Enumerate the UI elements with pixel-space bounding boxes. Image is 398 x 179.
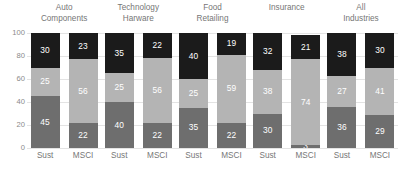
bar-segment-bottom[interactable]: 22	[69, 123, 98, 148]
stacked-bar[interactable]: 402535	[179, 33, 208, 148]
bar-segment-value: 40	[189, 52, 199, 61]
bar-segment-bottom[interactable]: 22	[217, 123, 246, 148]
x-axis-group: SustMSCI	[101, 150, 175, 170]
x-axis-tick-label: Sust	[105, 150, 134, 170]
bar-segment-top[interactable]: 30	[31, 33, 60, 68]
bar-group: 382736304129	[324, 33, 398, 148]
y-axis-tick-label: 20	[0, 121, 25, 129]
bar-segment-value: 25	[189, 89, 199, 98]
group-header: Insurance	[250, 0, 324, 33]
x-axis-group: SustMSCI	[27, 150, 101, 170]
gridline	[27, 148, 398, 149]
bar-segment-middle[interactable]: 25	[31, 68, 60, 97]
bar-segment-top[interactable]: 23	[69, 33, 98, 59]
bar-segment-bottom[interactable]: 45	[31, 96, 60, 148]
y-axis-tick-label: 0	[0, 144, 25, 152]
bar-segment-value: 3	[303, 145, 308, 148]
bar-segment-top[interactable]: 19	[217, 33, 246, 55]
bar-segment-middle[interactable]: 25	[179, 79, 208, 108]
bar-segment-value: 23	[78, 42, 88, 51]
y-axis-tick-label: 40	[0, 98, 25, 106]
stacked-bar[interactable]: 323830	[253, 33, 282, 148]
x-axis-tick-label: MSCI	[143, 150, 172, 170]
bar-segment-value: 56	[153, 86, 163, 95]
stacked-bar[interactable]: 382736	[327, 33, 356, 148]
bar-segment-value: 22	[78, 131, 88, 140]
x-axis-tick-label: Sust	[179, 150, 208, 170]
bar-segment-value: 29	[375, 127, 385, 136]
bar-segment-value: 27	[337, 87, 347, 96]
bar-segment-value: 22	[227, 131, 237, 140]
x-axis-tick-label: MSCI	[291, 150, 320, 170]
bar-segment-value: 56	[78, 87, 88, 96]
stacked-bar[interactable]: 225622	[143, 33, 172, 148]
x-axis-tick-label: MSCI	[69, 150, 98, 170]
stacked-bar-chart: Auto ComponentsTechnology HarwareFood Re…	[0, 0, 398, 179]
stacked-bar[interactable]: 195922	[217, 33, 246, 148]
bar-segment-middle[interactable]: 41	[365, 68, 394, 115]
bar-segment-bottom[interactable]: 30	[253, 114, 282, 149]
bar-segment-value: 40	[115, 121, 125, 130]
bar-segment-top[interactable]: 35	[105, 33, 134, 73]
y-axis-tick-label: 60	[0, 75, 25, 83]
bar-segment-value: 30	[375, 46, 385, 55]
bar-segment-bottom[interactable]: 3	[291, 145, 320, 148]
bar-segment-middle[interactable]: 59	[217, 55, 246, 123]
bar-segment-value: 22	[153, 41, 163, 50]
group-header-row: Auto ComponentsTechnology HarwareFood Re…	[27, 0, 398, 33]
group-header: Auto Components	[27, 0, 101, 33]
stacked-bar[interactable]: 304129	[365, 33, 394, 148]
bar-group: 302545235622	[27, 33, 101, 148]
stacked-bar[interactable]: 352540	[105, 33, 134, 148]
bar-segment-top[interactable]: 32	[253, 33, 282, 70]
bar-segment-middle[interactable]: 25	[105, 73, 134, 102]
x-axis-tick-label: MSCI	[217, 150, 246, 170]
x-axis-tick-label: Sust	[327, 150, 356, 170]
bar-segment-bottom[interactable]: 35	[179, 108, 208, 148]
bar-segment-top[interactable]: 22	[143, 33, 172, 58]
x-axis-tick-label: MSCI	[365, 150, 394, 170]
plot-area: 3025452356223525402256224025351959223238…	[27, 33, 398, 148]
bar-segment-value: 41	[375, 87, 385, 96]
bar-segment-value: 59	[227, 84, 237, 93]
bar-segment-middle[interactable]: 38	[253, 70, 282, 114]
bar-segment-value: 38	[337, 50, 347, 59]
bar-segment-middle[interactable]: 74	[291, 59, 320, 144]
x-axis-group: SustMSCI	[324, 150, 398, 170]
stacked-bar[interactable]: 235622	[69, 33, 98, 148]
bar-segment-top[interactable]: 30	[365, 33, 394, 68]
bar-segment-middle[interactable]: 27	[327, 76, 356, 107]
bar-segment-top[interactable]: 38	[327, 33, 356, 76]
bar-segment-bottom[interactable]: 36	[327, 107, 356, 148]
group-header: Food Retailing	[175, 0, 249, 33]
bar-segment-value: 25	[40, 77, 50, 86]
bar-segment-value: 74	[301, 98, 311, 107]
stacked-bar[interactable]: 21743	[291, 33, 320, 148]
bar-segment-value: 38	[263, 87, 273, 96]
bar-segment-bottom[interactable]: 22	[143, 123, 172, 148]
group-header: Technology Harware	[101, 0, 175, 33]
bar-segment-value: 19	[227, 39, 237, 48]
bar-segment-bottom[interactable]: 40	[105, 102, 134, 148]
bar-segment-value: 30	[40, 46, 50, 55]
bar-segment-value: 35	[189, 123, 199, 132]
bar-segment-middle[interactable]: 56	[143, 58, 172, 122]
bar-segment-value: 25	[115, 83, 125, 92]
bar-group: 32383021743	[250, 33, 324, 148]
group-header: All Industries	[324, 0, 398, 33]
x-axis-tick-label: Sust	[31, 150, 60, 170]
stacked-bar[interactable]: 302545	[31, 33, 60, 148]
bar-segment-middle[interactable]: 56	[69, 59, 98, 123]
bar-segment-value: 30	[263, 126, 273, 135]
bar-groups: 3025452356223525402256224025351959223238…	[27, 33, 398, 148]
bar-segment-bottom[interactable]: 29	[365, 115, 394, 148]
x-axis-tick-label: Sust	[253, 150, 282, 170]
y-axis-tick-label: 100	[0, 29, 25, 37]
y-axis-tick-label: 80	[0, 52, 25, 60]
bar-segment-top[interactable]: 40	[179, 33, 208, 79]
x-axis-group: SustMSCI	[250, 150, 324, 170]
bar-segment-top[interactable]: 21	[291, 35, 320, 59]
bar-segment-value: 22	[153, 131, 163, 140]
x-axis-group: SustMSCI	[175, 150, 249, 170]
bar-segment-value: 45	[40, 118, 50, 127]
